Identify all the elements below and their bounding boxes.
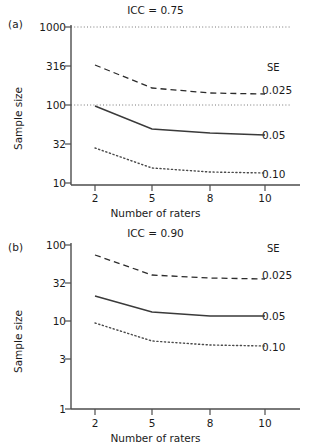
panel-b-series-010 xyxy=(95,323,265,346)
panel-b-series-0025 xyxy=(95,255,265,279)
panel-b-series-005 xyxy=(95,296,265,316)
panel-b-plot xyxy=(0,223,311,446)
figure-sample-size-vs-raters: (a) ICC = 0.75 Sample size 1000 316 100 … xyxy=(0,0,311,446)
panel-b-x-ticks xyxy=(95,409,265,415)
panel-b-y-ticks xyxy=(65,245,71,409)
panel-a-x-ticks xyxy=(95,185,265,191)
panel-a-series-010 xyxy=(95,148,265,173)
panel-a-y-ticks xyxy=(65,27,71,183)
panel-a-series-0025 xyxy=(95,65,265,94)
panel-a-plot xyxy=(0,0,311,223)
panel-a-series-005 xyxy=(95,106,265,135)
panel-b: (b) ICC = 0.90 Sample size 100 32 10 3 1… xyxy=(0,223,311,446)
panel-a: (a) ICC = 0.75 Sample size 1000 316 100 … xyxy=(0,0,311,223)
